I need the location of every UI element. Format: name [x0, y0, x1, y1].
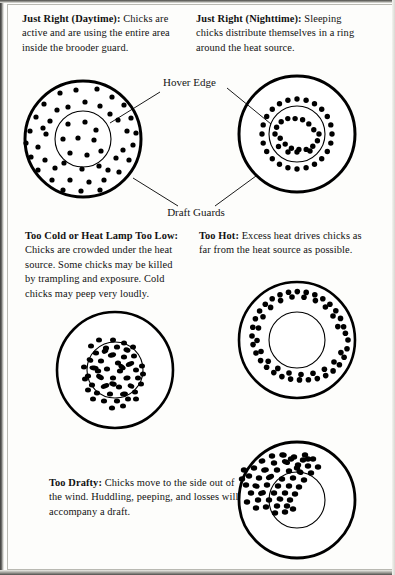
- diagram-layer: Hover Edge Draft Guards: [0, 0, 395, 575]
- diagram-nighttime: [239, 76, 355, 192]
- leader-draft-guards-left: [133, 178, 178, 206]
- diagram-too-cold: [57, 312, 173, 428]
- diagram-daytime: [23, 81, 141, 197]
- callout-draft-guards-label: Draft Guards: [167, 206, 225, 218]
- diagram-too-drafty: [239, 442, 355, 558]
- hover-edge-circle-too-hot: [269, 312, 325, 368]
- leader-draft-guards-right: [215, 176, 256, 206]
- document-page: Just Right (Daytime): Chicks are active …: [0, 0, 395, 575]
- diagram-too-hot: [239, 282, 355, 398]
- callout-hover-edge-label: Hover Edge: [163, 76, 216, 88]
- callout-draft-guards: Draft Guards: [133, 176, 256, 218]
